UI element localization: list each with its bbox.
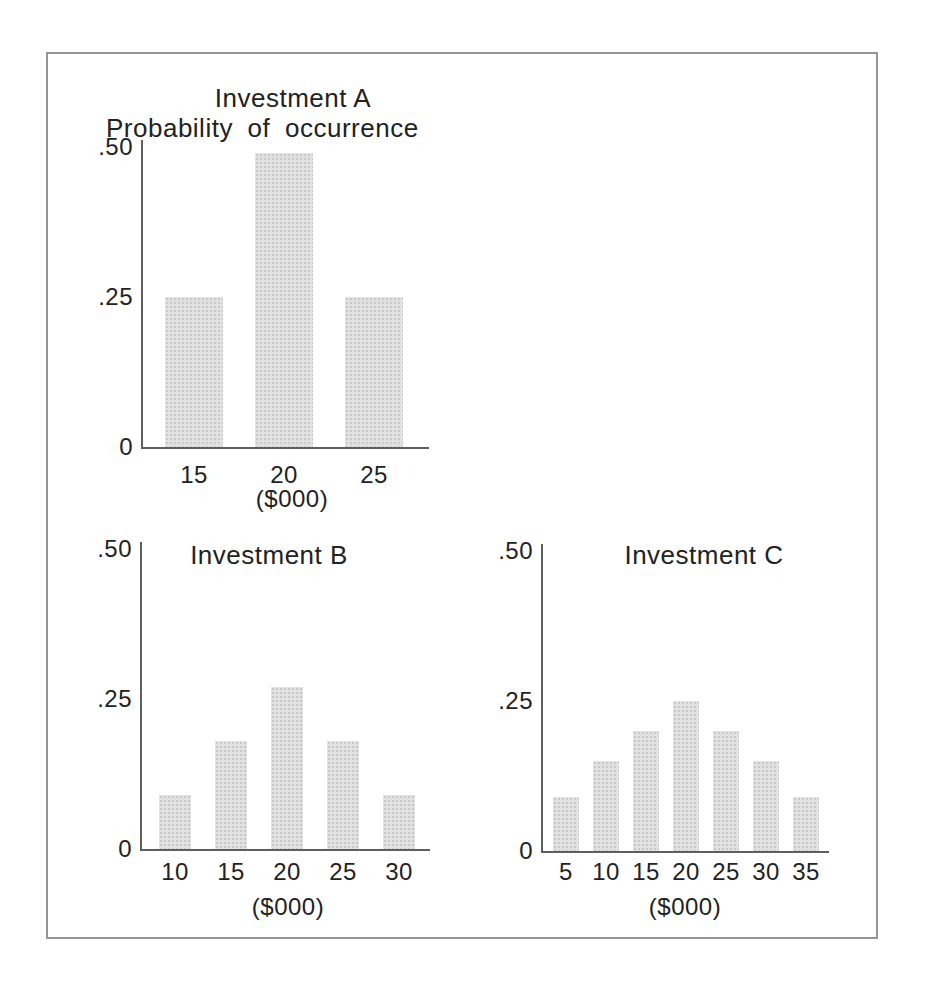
bar-30 xyxy=(753,761,779,851)
bar-25 xyxy=(713,731,739,851)
y-tick-label: 0 xyxy=(443,837,533,865)
x-axis-unit: ($000) xyxy=(649,893,721,921)
bar-20 xyxy=(673,701,699,851)
x-tick-label: 20 xyxy=(672,858,700,886)
y-axis-line xyxy=(541,544,543,853)
bar-5 xyxy=(553,797,579,851)
x-tick-label: 10 xyxy=(592,858,620,886)
bar-15 xyxy=(633,731,659,851)
x-tick-label: 15 xyxy=(632,858,660,886)
x-tick-label: 5 xyxy=(559,858,573,886)
x-tick-label: 35 xyxy=(792,858,820,886)
bar-35 xyxy=(793,797,819,851)
chart-title: Investment C xyxy=(624,541,783,569)
y-tick-label: .25 xyxy=(443,687,533,715)
figure-frame: Investment AProbability of occurrence.50… xyxy=(46,52,878,939)
chart-investment-c: Investment C.50.2505101520253035($000) xyxy=(48,54,876,937)
y-tick-label: .50 xyxy=(443,537,533,565)
bar-10 xyxy=(593,761,619,851)
x-tick-label: 30 xyxy=(752,858,780,886)
x-tick-label: 25 xyxy=(712,858,740,886)
x-axis-line xyxy=(541,851,829,853)
